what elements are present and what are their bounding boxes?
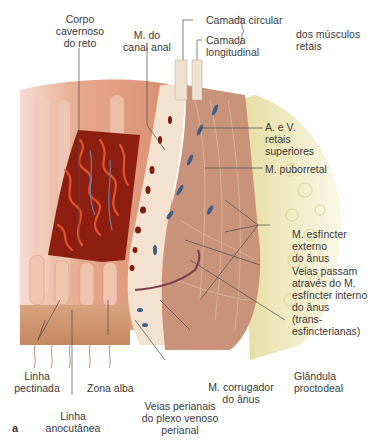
label-veias-perianais: Veias perianais do plexo venoso perianal (135, 400, 225, 436)
longitudinal-layer (192, 60, 202, 100)
label-m-esfincter-externo: M. esfíncter externo do ânus (292, 228, 347, 264)
label-camada-longitudinal: Camada longitudinal (206, 34, 259, 58)
label-glandula-proctodeal: Glândula proctodeal (294, 370, 343, 394)
label-linha-anocutanea: Linha anocutânea (43, 410, 103, 434)
anatomy-figure: Corpo cavernoso do reto M. do canal anal… (0, 0, 375, 440)
circular-layer (175, 60, 187, 100)
label-linha-pectinada: Linha pectinada (12, 370, 62, 394)
label-dos-musculos-retais: dos músculos retais (296, 28, 360, 52)
label-corpo-cavernoso: Corpo cavernoso do reto (50, 13, 110, 49)
anal-skin (20, 305, 130, 345)
label-a-v-retais: A. e V. retais superiores (265, 121, 314, 157)
label-m-canal-anal: M. do canal anal (115, 29, 179, 53)
panel-letter: a (12, 422, 18, 434)
label-zona-alba: Zona alba (87, 382, 134, 394)
label-camada-circular: Camada circular (206, 14, 282, 26)
label-veias-passam: Veias passam através do M. esfíncter int… (292, 265, 367, 337)
label-m-puborretal: M. puborretal (265, 163, 327, 175)
